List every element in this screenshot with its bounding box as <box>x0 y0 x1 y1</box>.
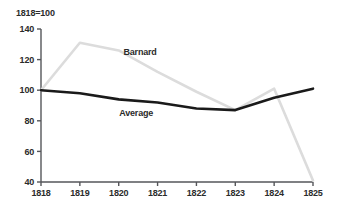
series-line-average <box>41 89 313 110</box>
chart-plot-area: 406080100120140 181818191820182118221823… <box>0 0 340 209</box>
x-axis-tick-label: 1822 <box>187 188 206 198</box>
x-axis-tick-group: 18181819182018211822182318241825 <box>31 182 322 198</box>
chart-container: 1818=100 406080100120140 181818191820182… <box>0 0 340 209</box>
x-axis-tick-label: 1824 <box>265 188 284 198</box>
x-axis-tick-label: 1820 <box>109 188 128 198</box>
x-axis-tick-label: 1821 <box>148 188 167 198</box>
series-line-barnard <box>41 43 313 181</box>
series-label-barnard: Barnard <box>124 47 157 57</box>
x-axis-tick-label: 1823 <box>226 188 245 198</box>
y-axis-tick-label: 60 <box>24 147 34 157</box>
y-axis-tick-label: 80 <box>24 116 34 126</box>
y-axis-tick-group: 406080100120140 <box>20 24 41 187</box>
y-axis-tick-label: 120 <box>20 55 35 65</box>
y-axis-tick-label: 140 <box>20 24 35 34</box>
y-axis-tick-label: 40 <box>24 177 34 187</box>
series-label-average: Average <box>119 108 153 118</box>
x-axis-tick-label: 1819 <box>70 188 89 198</box>
y-axis-tick-label: 100 <box>20 85 35 95</box>
x-axis-tick-label: 1818 <box>31 188 50 198</box>
series-group <box>41 43 313 181</box>
x-axis-tick-label: 1825 <box>303 188 322 198</box>
series-label-group: BarnardAverage <box>119 47 156 118</box>
